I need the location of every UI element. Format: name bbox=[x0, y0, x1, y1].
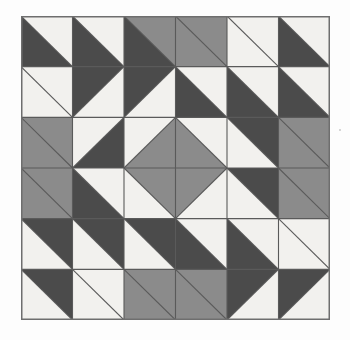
quilt-cell bbox=[227, 219, 279, 270]
quilt-cell bbox=[73, 16, 125, 67]
quilt-cell bbox=[124, 168, 176, 219]
quilt-cell bbox=[227, 269, 279, 320]
quilt-cell bbox=[124, 117, 176, 168]
quilt-cell bbox=[21, 219, 73, 270]
quilt-cell bbox=[21, 16, 73, 67]
quilt-cell bbox=[21, 168, 73, 219]
quilt-cell bbox=[279, 168, 331, 219]
quilt-cell bbox=[227, 16, 279, 67]
quilt-cell bbox=[176, 269, 228, 320]
quilt-cell bbox=[73, 67, 125, 118]
quilt-cell bbox=[124, 219, 176, 270]
image-speck bbox=[339, 129, 341, 131]
quilt-cell bbox=[21, 269, 73, 320]
quilt-figure bbox=[0, 0, 350, 340]
quilt-cell bbox=[21, 117, 73, 168]
quilt-cell bbox=[176, 219, 228, 270]
quilt-cell bbox=[73, 117, 125, 168]
quilt-cell bbox=[176, 168, 228, 219]
quilt-cell bbox=[176, 67, 228, 118]
quilt-cell bbox=[279, 67, 331, 118]
quilt-cell bbox=[73, 219, 125, 270]
quilt-cell bbox=[279, 269, 331, 320]
quilt-cell bbox=[279, 219, 331, 270]
quilt-cell bbox=[227, 168, 279, 219]
quilt-cell bbox=[73, 269, 125, 320]
quilt-cell bbox=[227, 67, 279, 118]
quilt-cell bbox=[279, 16, 331, 67]
quilt-cell bbox=[73, 168, 125, 219]
quilt-cell bbox=[124, 67, 176, 118]
quilt-cell bbox=[176, 117, 228, 168]
quilt-cell bbox=[124, 16, 176, 67]
quilt-cell bbox=[124, 269, 176, 320]
quilt-cell bbox=[176, 16, 228, 67]
quilt-cell bbox=[279, 117, 331, 168]
quilt-cell bbox=[227, 117, 279, 168]
quilt-cell bbox=[21, 67, 73, 118]
quilt-pattern-canvas bbox=[21, 16, 330, 320]
